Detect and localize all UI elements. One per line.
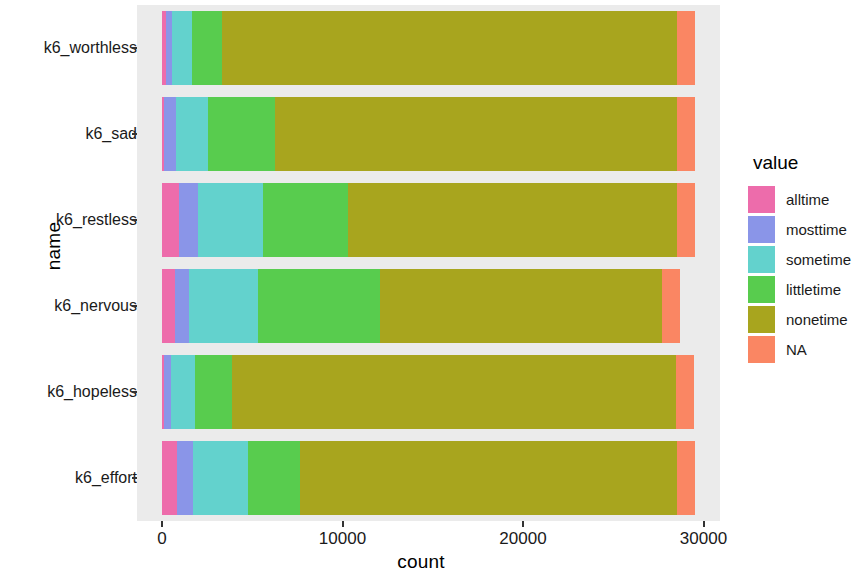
legend-item-sometime: sometime: [748, 244, 868, 274]
bar-k6_hopeless: [137, 355, 745, 429]
bar-segment-k6_sad-mosttime: [164, 97, 176, 171]
bar-k6_restless: [137, 183, 745, 257]
bar-segment-k6_hopeless-mosttime: [164, 355, 171, 429]
legend-label-nonetime: nonetime: [786, 311, 848, 328]
bar-k6_effort: [137, 441, 745, 515]
x-tick-mark: [703, 521, 705, 527]
legend-label-alltime: alltime: [786, 191, 829, 208]
bar-segment-k6_effort-mosttime: [177, 441, 193, 515]
legend-swatch-littletime: [748, 276, 775, 303]
bar-segment-k6_nervous-nonetime: [380, 269, 662, 343]
legend-label-NA: NA: [786, 341, 807, 358]
x-axis-title: count: [137, 551, 705, 573]
bar-segment-k6_worthless-sometime: [172, 11, 192, 85]
x-tick-mark: [522, 521, 524, 527]
bar-segment-k6_hopeless-nonetime: [232, 355, 676, 429]
x-tick-label-10000: 10000: [319, 529, 366, 549]
y-tick-label-k6_nervous: k6_nervous: [5, 297, 137, 315]
bar-segment-k6_sad-nonetime: [275, 97, 677, 171]
bar-k6_nervous: [137, 269, 745, 343]
bar-segment-k6_effort-NA: [677, 441, 695, 515]
legend-swatch-mosttime: [748, 216, 775, 243]
legend-item-NA: NA: [748, 334, 868, 364]
bar-k6_sad: [137, 97, 745, 171]
legend-swatch-alltime: [748, 186, 775, 213]
x-tick-label-20000: 20000: [499, 529, 546, 549]
bar-segment-k6_restless-nonetime: [348, 183, 677, 257]
bar-segment-k6_effort-alltime: [162, 441, 177, 515]
bar-segment-k6_effort-littletime: [248, 441, 300, 515]
bar-segment-k6_worthless-nonetime: [222, 11, 677, 85]
bar-segment-k6_restless-sometime: [198, 183, 263, 257]
bar-segment-k6_nervous-alltime: [162, 269, 175, 343]
x-tick-label-0: 0: [157, 529, 166, 549]
y-tick-label-k6_sad: k6_sad: [5, 125, 137, 143]
legend-item-littletime: littletime: [748, 274, 868, 304]
x-tick-label-30000: 30000: [680, 529, 727, 549]
bar-segment-k6_nervous-NA: [662, 269, 680, 343]
legend-item-mosttime: mosttime: [748, 214, 868, 244]
stacked-bar-chart: name k6_worthlessk6_sadk6_restlessk6_ner…: [0, 0, 868, 579]
y-tick-label-k6_restless: k6_restless: [5, 211, 137, 229]
bar-segment-k6_nervous-sometime: [189, 269, 258, 343]
bar-segment-k6_sad-sometime: [176, 97, 208, 171]
y-tick-label-k6_effort: k6_effort: [5, 469, 137, 487]
bar-segment-k6_worthless-littletime: [192, 11, 222, 85]
bar-segment-k6_worthless-NA: [677, 11, 695, 85]
bar-segment-k6_restless-littletime: [263, 183, 348, 257]
bar-k6_worthless: [137, 11, 745, 85]
x-tick-mark: [161, 521, 163, 527]
legend-title: value: [753, 152, 868, 174]
bar-segment-k6_effort-nonetime: [300, 441, 677, 515]
bar-segment-k6_sad-littletime: [208, 97, 275, 171]
plot-panel: [137, 5, 720, 521]
legend-label-mosttime: mosttime: [786, 221, 847, 238]
legend-label-littletime: littletime: [786, 281, 841, 298]
bar-segment-k6_restless-alltime: [162, 183, 179, 257]
bar-segment-k6_hopeless-littletime: [195, 355, 232, 429]
bar-segment-k6_sad-NA: [677, 97, 695, 171]
legend-item-nonetime: nonetime: [748, 304, 868, 334]
bar-segment-k6_hopeless-NA: [676, 355, 694, 429]
bar-segment-k6_effort-sometime: [193, 441, 248, 515]
y-tick-label-k6_worthless: k6_worthless: [5, 39, 137, 57]
legend-item-alltime: alltime: [748, 184, 868, 214]
legend-label-sometime: sometime: [786, 251, 851, 268]
y-tick-label-k6_hopeless: k6_hopeless: [5, 383, 137, 401]
legend-swatch-NA: [748, 336, 775, 363]
bar-segment-k6_nervous-littletime: [258, 269, 380, 343]
legend-items: alltimemosttimesometimelittletimenonetim…: [748, 184, 868, 364]
bar-segment-k6_nervous-mosttime: [175, 269, 189, 343]
bar-segment-k6_restless-mosttime: [179, 183, 198, 257]
y-axis: k6_worthlessk6_sadk6_restlessk6_nervousk…: [0, 0, 137, 579]
legend: value alltimemosttimesometimelittletimen…: [748, 152, 868, 364]
legend-swatch-sometime: [748, 246, 775, 273]
bar-segment-k6_restless-NA: [677, 183, 695, 257]
bar-segment-k6_hopeless-sometime: [171, 355, 195, 429]
x-tick-mark: [342, 521, 344, 527]
legend-swatch-nonetime: [748, 306, 775, 333]
